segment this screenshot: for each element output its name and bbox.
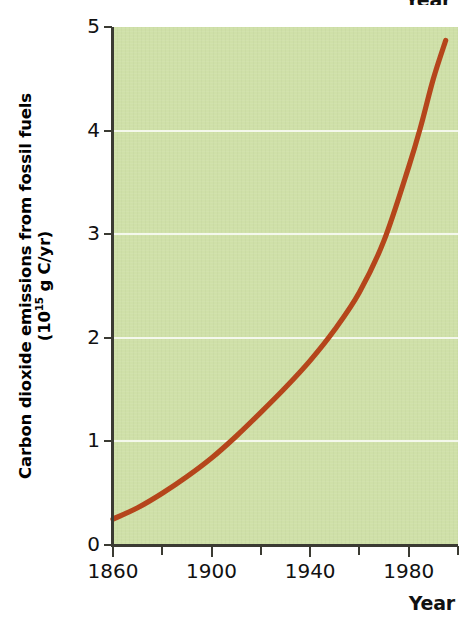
- x-tick-minor-2000: [457, 546, 459, 555]
- x-tick-1940: [309, 546, 311, 557]
- y-tick-1: [104, 440, 112, 442]
- y-axis-unit-prefix: (10: [35, 311, 54, 341]
- x-tick-label-1900: 1900: [177, 561, 247, 581]
- y-axis-title: Carbon dioxide emissions from fossil fue…: [0, 27, 70, 545]
- plot-area: [113, 27, 458, 545]
- x-tick-label-1980: 1980: [374, 561, 444, 581]
- y-tick-5: [104, 26, 112, 28]
- x-tick-1860: [112, 546, 114, 557]
- x-tick-minor-1960: [358, 546, 360, 555]
- y-tick-label-4: 4: [74, 120, 100, 140]
- emissions-curve: [113, 27, 458, 545]
- y-axis-unit-exponent: 15: [34, 297, 46, 311]
- figure-co2-emissions: Year Carbon dioxide emissions from fossi…: [0, 0, 465, 628]
- y-tick-label-5: 5: [74, 16, 100, 36]
- y-tick-label-0: 0: [74, 534, 100, 554]
- x-tick-1900: [211, 546, 213, 557]
- x-tick-minor-1920: [260, 546, 262, 555]
- cropped-year-label-above: Year: [405, 0, 451, 5]
- x-tick-minor-1880: [161, 546, 163, 555]
- x-tick-1980: [408, 546, 410, 557]
- y-tick-0: [104, 544, 112, 546]
- y-tick-label-3: 3: [74, 223, 100, 243]
- y-tick-2: [104, 337, 112, 339]
- y-axis-unit-suffix: g C/yr): [35, 231, 54, 297]
- y-tick-label-1: 1: [74, 430, 100, 450]
- y-tick-4: [104, 130, 112, 132]
- x-axis-title: Year: [409, 592, 455, 614]
- x-tick-label-1860: 1860: [78, 561, 148, 581]
- y-tick-label-2: 2: [74, 327, 100, 347]
- x-tick-label-1940: 1940: [275, 561, 345, 581]
- y-axis-line: [111, 27, 114, 546]
- y-axis-title-line1: Carbon dioxide emissions from fossil fue…: [16, 93, 35, 479]
- y-tick-3: [104, 233, 112, 235]
